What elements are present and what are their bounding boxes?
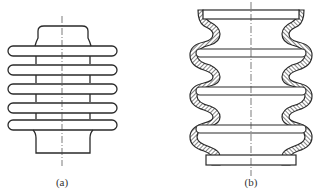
diagram-canvas: [0, 0, 325, 196]
panel-b-label: (b): [245, 176, 258, 188]
panel-a-label: (a): [56, 176, 68, 188]
panel-b-drawing: [190, 2, 312, 176]
rings: [8, 46, 117, 130]
top-cap: [35, 26, 91, 46]
panel-a-drawing: [8, 16, 117, 166]
bottom-base: [33, 130, 93, 153]
